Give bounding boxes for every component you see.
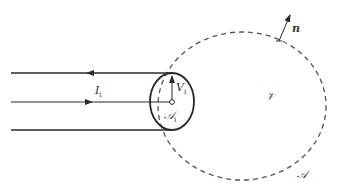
bounding-surface [158, 32, 326, 180]
diagram-canvas: n Ii Vi 𝒜i 𝒱 𝒜 [0, 0, 338, 189]
current-return-arrow-icon [86, 70, 94, 76]
label-surface: 𝒜 [297, 168, 311, 181]
label-port-area: 𝒜i [164, 109, 178, 124]
label-potential: Vi [176, 81, 187, 96]
label-current: Ii [94, 84, 102, 99]
label-volume: 𝒱 [266, 90, 279, 103]
port-center-node [170, 100, 175, 105]
label-normal: n [292, 22, 300, 35]
normal-vector [279, 15, 290, 41]
current-forward-arrow-icon [85, 99, 93, 105]
